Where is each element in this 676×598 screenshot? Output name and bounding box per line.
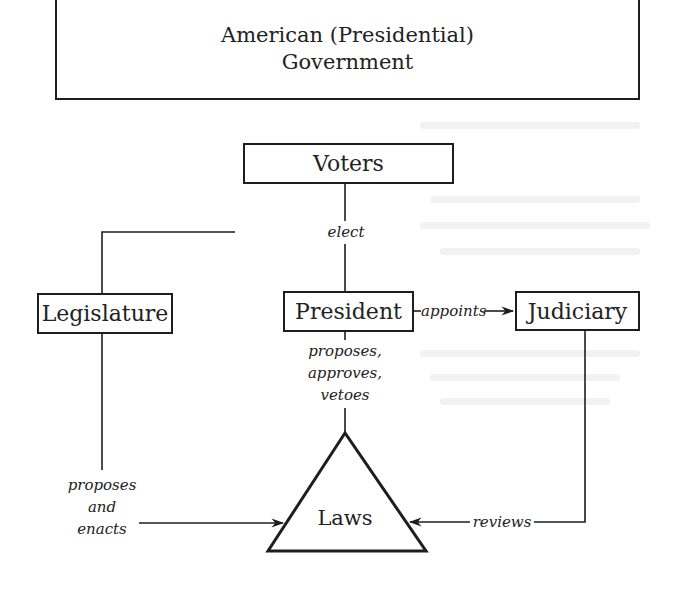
approves-text: approves, <box>300 362 390 384</box>
judiciary-down-line <box>534 330 585 522</box>
judiciary-node: Judiciary <box>515 291 640 331</box>
proposes-text: proposes, <box>300 340 390 362</box>
elect-label: elect <box>326 221 366 243</box>
legislature-node: Legislature <box>37 293 173 334</box>
president-node: President <box>283 291 414 332</box>
president-laws-label: proposes, approves, vetoes <box>300 340 390 406</box>
diagram-canvas: American (Presidential) Government Voter… <box>0 0 676 598</box>
and-text: and <box>60 496 144 518</box>
title-line-2: Government <box>282 49 414 76</box>
appoints-label: appoints <box>421 300 484 322</box>
reviews-label: reviews <box>470 511 534 533</box>
title-line-1: American (Presidential) <box>221 22 474 49</box>
elect-to-legislature-line <box>102 232 235 293</box>
vetoes-text: vetoes <box>300 384 390 406</box>
enacts-text: enacts <box>60 518 144 540</box>
laws-triangle <box>268 433 426 551</box>
title-box: American (Presidential) Government <box>55 0 640 100</box>
legislature-laws-label: proposes and enacts <box>60 474 144 540</box>
proposes-text: proposes <box>60 474 144 496</box>
laws-label: Laws <box>310 506 380 530</box>
voters-node: Voters <box>243 143 454 184</box>
